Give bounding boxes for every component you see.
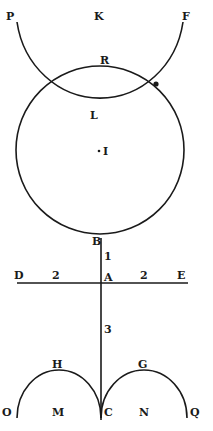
- center-point-i: [98, 150, 101, 153]
- label-d: D: [14, 269, 24, 282]
- intersection-point: [153, 81, 158, 86]
- mark-ac: 3: [104, 323, 112, 336]
- label-a: A: [103, 271, 113, 284]
- circle-i: [16, 66, 184, 234]
- label-b: B: [92, 235, 101, 248]
- label-k: K: [94, 10, 104, 23]
- label-e: E: [177, 269, 185, 282]
- label-l: L: [90, 109, 98, 122]
- label-p: P: [6, 10, 14, 23]
- label-f: F: [182, 10, 190, 23]
- mark-ba: 1: [104, 250, 112, 263]
- label-o: O: [2, 406, 12, 419]
- label-i: I: [103, 145, 108, 158]
- label-c: C: [104, 406, 113, 419]
- mark-da: 2: [52, 269, 60, 282]
- label-g: G: [138, 358, 147, 371]
- label-n: N: [139, 406, 149, 419]
- label-q: Q: [190, 406, 200, 419]
- geometry-figure: P K F R L I B 1 D 2 A 2 E 3 H G O M C N …: [0, 0, 213, 431]
- label-r: R: [100, 54, 110, 67]
- mark-ae: 2: [140, 269, 148, 282]
- label-m: M: [52, 406, 64, 419]
- label-h: H: [52, 358, 62, 371]
